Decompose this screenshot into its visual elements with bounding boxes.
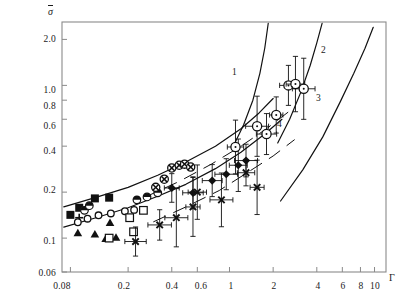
curve-envelope-upper [64,99,273,207]
data-point [188,165,206,219]
y-tick-label-0-4: 0.4 [14,146,56,156]
y-tick-label-0-6: 0.6 [14,121,56,131]
y-tick-label-0-1: 0.1 [14,236,56,246]
x-tick-label-4: 4 [306,281,330,291]
data-point [75,219,82,226]
x-tick-label-2: 2 [262,281,286,291]
curve-label-3: 3 [316,93,321,103]
y-axis-title-text: σ [48,6,53,17]
y-tick-label-0-06: 0.06 [14,268,56,278]
data-point [91,194,99,202]
data-point [66,211,74,219]
data-point [95,212,102,219]
curve-label-4: 4 [277,119,282,129]
data-point [140,207,148,215]
y-tick-label-0-8: 0.8 [14,101,56,111]
data-point [133,196,141,204]
data-point [160,175,168,183]
y-axis-title: σ [48,6,53,17]
data-point [186,177,200,236]
data-point [143,193,151,201]
figure-chart-sigma-vs-gamma: σ Γ 2.0 1.0 0.8 0.6 0.4 0.2 0.1 0.06 0.0… [0,0,404,303]
data-point [187,163,195,171]
data-point [91,230,100,238]
curve-dashed-band-lower [154,140,295,222]
data-point [250,160,264,214]
data-point [74,229,83,237]
y-tick-label-0-2: 0.2 [14,185,56,195]
scatter-plot-canvas [0,0,404,303]
data-point [256,114,276,155]
data-point [106,218,115,226]
x-tick-label-0-08: 0.08 [44,281,80,291]
data-point [246,96,269,156]
curve-curve-1 [233,23,269,148]
x-tick-label-10: 10 [362,281,388,291]
y-tick-label-1-0: 1.0 [14,85,56,95]
data-point [105,234,113,242]
data-point [152,183,160,191]
x-tick-label-1: 1 [219,281,243,291]
x-tick-label-0-2: 0.2 [106,281,142,291]
data-point [165,189,188,247]
data-point [86,202,94,210]
x-axis-title: Γ [389,272,395,283]
data-point [108,210,115,217]
curve-curve-3 [281,27,374,201]
series-open-circle-large [227,56,315,173]
x-tick-label-0-6: 0.6 [183,281,219,291]
data-point [130,228,138,236]
y-tick-label-2-0: 2.0 [14,34,56,44]
curve-label-1: 1 [232,67,237,77]
data-point [126,214,134,222]
data-point [125,227,146,256]
data-point [131,207,138,214]
curve-label-2: 2 [321,45,326,55]
data-point [148,210,172,240]
data-point [84,215,91,222]
data-point [105,194,113,202]
